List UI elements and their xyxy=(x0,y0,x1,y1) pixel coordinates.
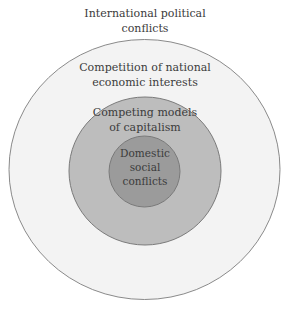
label-domestic-social-conflicts: Domestic social conflicts xyxy=(110,146,180,188)
label-international-political-conflicts: International political conflicts xyxy=(60,6,230,36)
label-competing-models-of-capitalism: Competing models of capitalism xyxy=(80,105,210,135)
label-competition-of-national-economic-interests: Competition of national economic interes… xyxy=(60,60,230,90)
